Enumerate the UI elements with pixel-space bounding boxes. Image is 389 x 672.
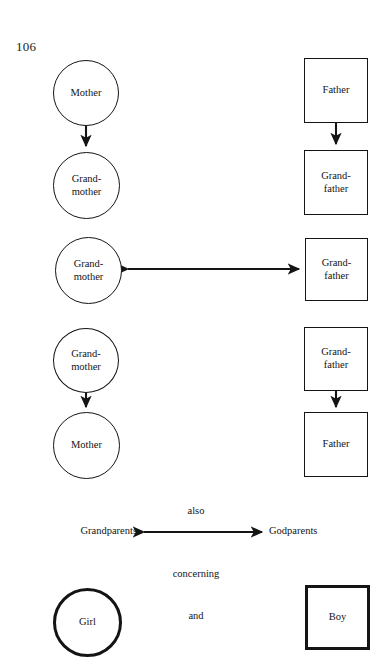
node-mother-bottom[interactable]: Mother	[53, 412, 120, 479]
node-grandmother-4[interactable]: Grand- mother	[53, 328, 119, 393]
node-label: Boy	[327, 611, 349, 624]
diagram-page: 106 Moth	[0, 0, 389, 672]
node-grandmother-2[interactable]: Grand- mother	[53, 152, 120, 219]
node-boy[interactable]: Boy	[305, 585, 370, 650]
node-grandmother-3[interactable]: Grand- mother	[55, 237, 122, 304]
node-label: Mother	[69, 87, 104, 100]
node-label: Father	[321, 438, 352, 451]
annotation-also: also	[188, 505, 205, 516]
node-label: Grand- father	[319, 170, 353, 196]
node-label: Mother	[69, 439, 104, 452]
node-label: Grand- mother	[69, 348, 103, 374]
page-number: 106	[16, 39, 36, 55]
node-label: Father	[321, 84, 352, 97]
node-mother-top[interactable]: Mother	[53, 60, 119, 126]
node-father-top[interactable]: Father	[304, 58, 368, 123]
node-label: Grand- mother	[70, 173, 104, 199]
node-grandfather-2[interactable]: Grand- father	[304, 150, 368, 215]
label-grandparents: Grandparents	[80, 525, 137, 536]
node-label: Girl	[77, 616, 98, 629]
annotation-and: and	[188, 610, 203, 621]
label-godparents: Godparents	[269, 525, 317, 536]
node-father-bottom[interactable]: Father	[304, 412, 368, 477]
node-label: Grand- mother	[72, 258, 106, 284]
annotation-concerning: concerning	[173, 568, 220, 579]
node-girl[interactable]: Girl	[53, 588, 122, 657]
node-grandfather-3[interactable]: Grand- father	[305, 238, 368, 301]
node-grandfather-4[interactable]: Grand- father	[304, 327, 368, 391]
node-label: Grand- father	[320, 257, 354, 283]
node-label: Grand- father	[319, 346, 353, 372]
